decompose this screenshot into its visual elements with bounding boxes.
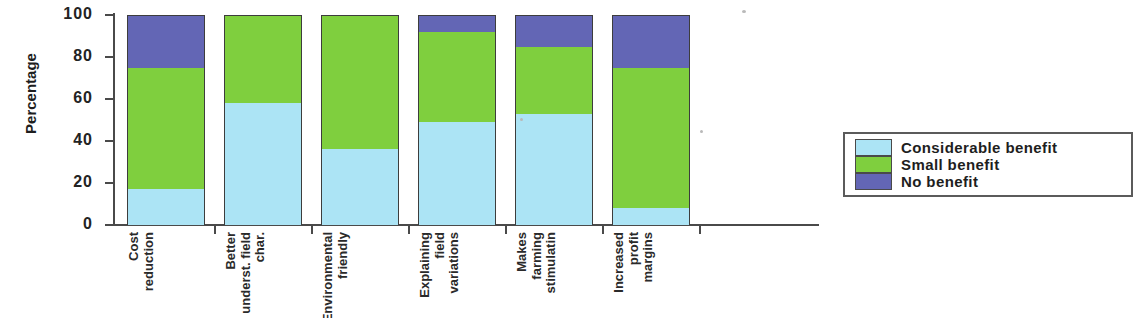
- chart-legend: Considerable benefitSmall benefitNo bene…: [843, 132, 1133, 197]
- bar-segment: [127, 189, 205, 225]
- bar-segment: [127, 68, 205, 190]
- y-tick-mark: [105, 98, 114, 100]
- bar-segment: [224, 103, 302, 225]
- x-category-label-word: reduction: [142, 232, 156, 291]
- x-category-label-word: Makes: [515, 232, 529, 272]
- x-category-label-word: variations: [447, 232, 461, 293]
- bar-column: [321, 15, 399, 225]
- x-category-label: Explainingfieldvariations: [418, 232, 496, 318]
- scan-speck: [520, 118, 523, 121]
- bar-segment: [418, 15, 496, 32]
- x-category-label-word: profit: [627, 232, 641, 265]
- x-category-label-word: Increased: [612, 232, 626, 293]
- y-tick-mark: [105, 140, 114, 142]
- bar-segment: [515, 47, 593, 114]
- bar-column: [418, 15, 496, 225]
- bar-segment: [612, 68, 690, 209]
- bar-segment: [612, 208, 690, 225]
- x-category-label-word: char.: [253, 232, 267, 262]
- bar-segment: [418, 122, 496, 225]
- y-tick-label-40: 40: [49, 132, 93, 148]
- legend-swatch: [855, 156, 892, 173]
- x-category-label-word: Better: [224, 232, 238, 270]
- x-tick-mark: [311, 226, 313, 234]
- bar-column: [515, 15, 593, 225]
- scan-speck: [742, 10, 746, 13]
- x-category-label: Environmentalfriendly: [321, 232, 399, 318]
- x-category-label-word: Cost: [127, 232, 141, 261]
- x-category-label-word: stimulatin: [544, 232, 558, 293]
- x-tick-mark: [408, 226, 410, 234]
- x-category-label-word: Explaining: [418, 232, 432, 298]
- bar-segment: [127, 15, 205, 68]
- legend-swatch: [855, 139, 892, 156]
- x-category-label-word: friendly: [336, 232, 350, 279]
- y-axis-title: Percentage: [22, 34, 39, 154]
- y-tick-label-20: 20: [49, 174, 93, 190]
- y-tick-label-100: 100: [49, 6, 93, 22]
- legend-label: No benefit: [901, 173, 1057, 190]
- x-category-label: Betterunderst. fieldchar.: [224, 232, 302, 318]
- bar-segment: [515, 114, 593, 225]
- bar-segment: [612, 15, 690, 68]
- x-category-label: Costreduction: [127, 232, 205, 318]
- x-tick-mark: [699, 226, 701, 234]
- bar-column: [127, 15, 205, 225]
- bar-segment: [224, 15, 302, 103]
- x-category-label-word: farming: [530, 232, 544, 280]
- bar-column: [612, 15, 690, 225]
- x-tick-mark: [214, 226, 216, 234]
- y-tick-label-60: 60: [49, 90, 93, 106]
- scan-speck: [700, 130, 703, 133]
- legend-label: Considerable benefit: [901, 139, 1057, 156]
- y-axis-tick-labels: 020406080100: [45, 0, 93, 240]
- legend-swatch-column: [855, 139, 892, 190]
- bar-segment: [515, 15, 593, 47]
- bar-column: [224, 15, 302, 225]
- x-category-label: Increasedprofitmargins: [612, 232, 690, 318]
- legend-swatch: [855, 173, 892, 190]
- y-tick-mark: [105, 14, 114, 16]
- y-tick-mark: [105, 182, 114, 184]
- y-tick-label-80: 80: [49, 48, 93, 64]
- bar-segment: [321, 149, 399, 225]
- x-category-label-word: underst. field: [239, 232, 253, 314]
- legend-label: Small benefit: [901, 156, 1057, 173]
- plot-area: [115, 15, 819, 225]
- bar-segment: [418, 32, 496, 122]
- y-tick-mark: [105, 56, 114, 58]
- x-category-label: Makesfarmingstimulatin: [515, 232, 593, 318]
- y-tick-mark: [105, 224, 114, 226]
- x-category-label-word: Environmental: [321, 232, 335, 318]
- y-tick-label-0: 0: [49, 216, 93, 232]
- stacked-bar-chart: Percentage 020406080100 CostreductionBet…: [0, 0, 1143, 319]
- x-tick-mark: [602, 226, 604, 234]
- x-tick-mark: [505, 226, 507, 234]
- legend-label-column: Considerable benefitSmall benefitNo bene…: [901, 139, 1057, 190]
- x-category-label-word: margins: [641, 232, 655, 283]
- bar-segment: [321, 15, 399, 149]
- x-category-label-word: field: [433, 232, 447, 259]
